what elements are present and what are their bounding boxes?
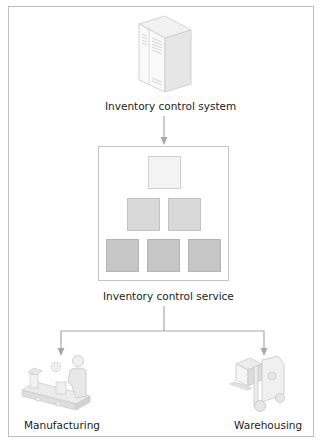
forklift-icon [228, 350, 290, 416]
hierarchy-square-level-1 [148, 156, 181, 189]
server-cabinet-icon [135, 14, 195, 94]
hierarchy-square-level-3 [147, 239, 180, 272]
hierarchy-square-level-3 [106, 239, 139, 272]
hierarchy-square-level-2 [127, 198, 160, 231]
hierarchy-square-level-2 [168, 198, 201, 231]
system-label: Inventory control system [105, 100, 236, 112]
hierarchy-square-level-3 [188, 239, 221, 272]
connector-service-branches [61, 331, 264, 350]
manufacturing-label: Manufacturing [24, 419, 100, 431]
assembly-line-worker-icon [20, 352, 100, 414]
arrow-head-icon [161, 137, 168, 145]
inventory-control-service-box [98, 146, 229, 281]
service-label: Inventory control service [103, 290, 234, 302]
warehousing-label: Warehousing [234, 419, 302, 431]
